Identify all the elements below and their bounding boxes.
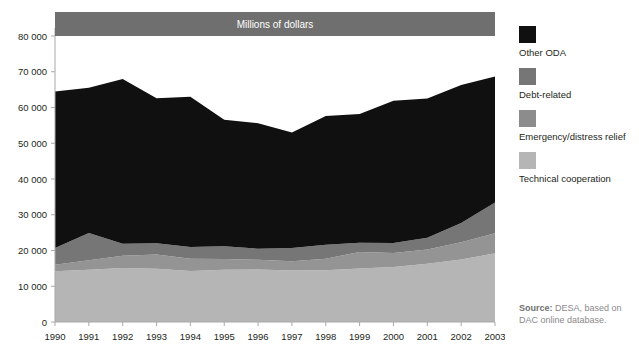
chart-title: Millions of dollars — [237, 19, 314, 30]
figure-root: 010 00020 00030 00040 00050 00060 00070 … — [0, 0, 639, 360]
legend-swatch-debt-related — [519, 68, 536, 85]
y-axis-tick-label: 0 — [42, 317, 47, 328]
legend-item-debt-related: Debt-related — [519, 68, 639, 101]
x-axis-tick-label: 1991 — [78, 331, 99, 342]
y-axis-tick-label: 80 000 — [18, 31, 47, 42]
x-axis-tick-label: 1995 — [214, 331, 235, 342]
x-axis-tick-label: 2001 — [417, 331, 438, 342]
chart-area: 010 00020 00030 00040 00050 00060 00070 … — [0, 0, 505, 360]
x-axis-tick-label: 2002 — [451, 331, 472, 342]
legend-label-other-oda: Other ODA — [519, 47, 639, 59]
y-axis-tick-label: 30 000 — [18, 209, 47, 220]
x-axis-tick-label: 1997 — [281, 331, 302, 342]
legend-item-emergency-relief: Emergency/distress relief — [519, 110, 639, 143]
x-axis-tick-label: 1993 — [146, 331, 167, 342]
legend-swatch-technical-cooperation — [519, 152, 536, 169]
source-note: Source: DESA, based on DAC online databa… — [519, 303, 637, 326]
y-axis-tick-label: 20 000 — [18, 245, 47, 256]
x-axis-tick-label: 1998 — [315, 331, 336, 342]
legend-label-debt-related: Debt-related — [519, 89, 639, 101]
x-axis-tick-label: 1992 — [112, 331, 133, 342]
source-label: Source: — [519, 303, 553, 313]
chart-legend: Other ODA Debt-related Emergency/distres… — [519, 26, 639, 194]
x-axis-tick-label: 2000 — [383, 331, 404, 342]
y-axis-tick-label: 60 000 — [18, 102, 47, 113]
y-axis-tick-label: 10 000 — [18, 281, 47, 292]
y-axis-tick-label: 70 000 — [18, 66, 47, 77]
y-axis-tick-label: 50 000 — [18, 138, 47, 149]
legend-swatch-other-oda — [519, 26, 536, 43]
x-axis-tick-label: 1990 — [44, 331, 65, 342]
legend-item-technical-cooperation: Technical cooperation — [519, 152, 639, 185]
x-axis-tick-label: 1996 — [248, 331, 269, 342]
legend-label-emergency-relief: Emergency/distress relief — [519, 131, 639, 143]
x-axis-tick-label: 1999 — [349, 331, 370, 342]
x-axis-tick-label: 2003 — [484, 331, 505, 342]
x-axis-tick-label: 1994 — [180, 331, 201, 342]
y-axis-tick-label: 40 000 — [18, 174, 47, 185]
legend-item-other-oda: Other ODA — [519, 26, 639, 59]
legend-label-technical-cooperation: Technical cooperation — [519, 173, 639, 185]
legend-swatch-emergency-relief — [519, 110, 536, 127]
stacked-area-chart: 010 00020 00030 00040 00050 00060 00070 … — [0, 0, 505, 360]
